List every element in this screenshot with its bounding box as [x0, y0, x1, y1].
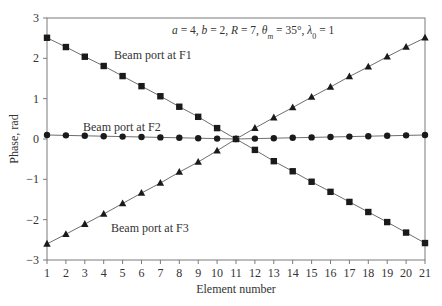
circle-marker [214, 135, 220, 141]
x-tick-label: 16 [325, 266, 337, 280]
y-tick-label: −1 [26, 172, 39, 186]
circle-marker [119, 133, 125, 139]
y-tick-label: 0 [33, 132, 39, 146]
y-axis-title: Phase, rad [7, 114, 21, 163]
annotation-part: = 4, [178, 24, 202, 37]
x-tick-label: 19 [381, 266, 393, 280]
x-tick-label: 15 [306, 266, 318, 280]
square-marker [157, 93, 163, 99]
triangle-marker [119, 200, 126, 207]
square-marker [119, 73, 125, 79]
circle-marker [271, 135, 277, 141]
annotation-part: = 2, [207, 24, 231, 37]
triangle-marker [43, 240, 50, 247]
annotation-part: R [230, 24, 238, 36]
y-tick-label: 2 [33, 51, 39, 65]
triangle-marker [270, 114, 277, 121]
circle-marker [403, 132, 409, 138]
triangle-marker [365, 63, 372, 70]
x-tick-label: 17 [343, 266, 355, 280]
triangle-marker [251, 124, 258, 131]
square-marker [252, 147, 258, 153]
circle-marker [138, 134, 144, 140]
circle-marker [176, 135, 182, 141]
triangle-marker [308, 93, 315, 100]
triangle-marker [289, 104, 296, 111]
circle-marker [327, 134, 333, 140]
square-marker [82, 54, 88, 60]
square-marker [44, 35, 50, 41]
square-marker [176, 104, 182, 110]
x-tick-label: 13 [268, 266, 280, 280]
x-tick-label: 4 [101, 266, 107, 280]
x-tick-label: 9 [195, 266, 201, 280]
y-tick-label: 3 [33, 11, 39, 25]
circle-marker [252, 135, 258, 141]
triangle-marker [402, 43, 409, 50]
series-label: Beam port at F1 [114, 48, 192, 62]
parameter-annotation: a = 4, b = 2, R = 7, θm = 35°, λ0 = 1 [172, 24, 335, 41]
x-tick-label: 21 [419, 266, 431, 280]
circle-marker [157, 134, 163, 140]
triangle-marker [81, 220, 88, 227]
x-tick-label: 14 [287, 266, 299, 280]
square-marker [290, 168, 296, 174]
y-tick-label: 1 [33, 92, 39, 106]
x-tick-label: 2 [63, 266, 69, 280]
x-axis-title: Element number [196, 282, 276, 296]
x-tick-label: 11 [230, 266, 242, 280]
annotation-part: = 35°, [273, 24, 307, 37]
square-marker [308, 179, 314, 185]
square-marker [214, 125, 220, 131]
square-marker [403, 229, 409, 235]
circle-marker [365, 133, 371, 139]
square-marker [138, 83, 144, 89]
x-axis-ticks: 123456789101112131415161718192021 [44, 260, 431, 280]
x-tick-label: 3 [82, 266, 88, 280]
triangle-marker [421, 34, 428, 41]
square-marker [327, 189, 333, 195]
y-axis-ticks: −3−2−10123 [26, 11, 47, 267]
circle-marker [308, 134, 314, 140]
x-tick-label: 10 [211, 266, 223, 280]
x-tick-label: 6 [139, 266, 145, 280]
circle-marker [422, 132, 428, 138]
square-marker [384, 219, 390, 225]
series-label: Beam port at F3 [111, 221, 189, 235]
circle-marker [384, 133, 390, 139]
series-label: Beam port at F2 [83, 120, 161, 134]
x-tick-label: 7 [157, 266, 163, 280]
square-marker [195, 114, 201, 120]
triangle-marker [346, 72, 353, 79]
triangle-marker [157, 179, 164, 186]
annotation-part: = 7, [238, 24, 262, 37]
x-tick-label: 5 [120, 266, 126, 280]
triangle-marker [195, 158, 202, 165]
series-layer [43, 34, 428, 247]
square-marker [346, 199, 352, 205]
triangle-marker [176, 168, 183, 175]
circle-marker [290, 135, 296, 141]
triangle-marker [384, 53, 391, 60]
x-tick-label: 18 [362, 266, 374, 280]
circle-marker [346, 133, 352, 139]
x-tick-label: 8 [176, 266, 182, 280]
phase-chart: −3−2−10123 12345678910111213141516171819… [0, 0, 442, 306]
triangle-marker [100, 210, 107, 217]
annotation-part: = 1 [316, 24, 334, 36]
x-tick-label: 20 [400, 266, 412, 280]
square-marker [101, 63, 107, 69]
y-tick-label: −2 [26, 213, 39, 227]
x-tick-label: 1 [44, 266, 50, 280]
triangle-marker [213, 147, 220, 154]
circle-marker [195, 135, 201, 141]
circle-marker [44, 132, 50, 138]
triangle-marker [138, 189, 145, 196]
x-tick-label: 12 [249, 266, 261, 280]
series-labels: Beam port at F1Beam port at F2Beam port … [83, 48, 192, 235]
triangle-marker [327, 83, 334, 90]
square-marker [422, 240, 428, 246]
y-tick-label: −3 [26, 253, 39, 267]
square-marker [271, 158, 277, 164]
square-marker [365, 209, 371, 215]
